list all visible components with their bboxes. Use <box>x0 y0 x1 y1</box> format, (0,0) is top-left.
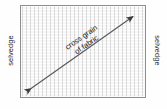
cross-grain-diagram: selvedge selvedge cross grain of fabric <box>0 0 167 109</box>
label-selvedge-left: selvedge <box>6 28 15 74</box>
label-selvedge-right: selvedge <box>153 28 162 74</box>
